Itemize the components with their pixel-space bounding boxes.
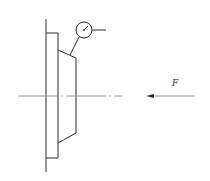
force-label: F [171, 78, 179, 88]
dial-indicator [70, 22, 106, 55]
gauge-stem [70, 37, 79, 55]
gauge-pivot [83, 29, 85, 31]
flange-plate [46, 33, 58, 158]
tapered-hub [58, 50, 76, 143]
force-arrow [146, 94, 195, 98]
arrowhead-left-icon [146, 94, 154, 98]
diagram-canvas: F [0, 0, 210, 181]
